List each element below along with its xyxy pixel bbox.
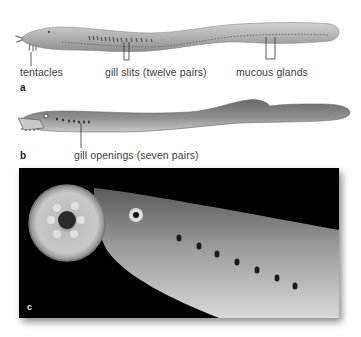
- hagfish-illustration: [0, 0, 361, 170]
- lamprey-photo: c: [19, 168, 339, 318]
- label-tentacles: tentacles: [20, 66, 63, 78]
- hagfish-body: [22, 23, 339, 52]
- panel-letter-b: b: [20, 150, 26, 161]
- label-gill-slits: gill slits (twelve pairs): [105, 66, 207, 78]
- panel-letter-c: c: [27, 302, 32, 312]
- label-mucous-glands: mucous glands: [236, 66, 308, 78]
- lamprey-body: [20, 100, 350, 132]
- label-gill-openings: gill openings (seven pairs): [74, 149, 199, 161]
- panel-letter-a: a: [20, 82, 26, 93]
